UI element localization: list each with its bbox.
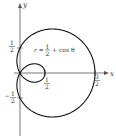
limacon-diagram: x y 1 2 − 1 2 1 2 3 2 r = 1 2 + cos θ xyxy=(0,0,116,140)
x-axis-label: x xyxy=(110,70,114,78)
svg-text:1: 1 xyxy=(46,43,50,50)
y-half-num: 1 xyxy=(10,39,14,46)
y-axis-arrow-icon xyxy=(18,3,22,8)
svg-text:2: 2 xyxy=(46,50,50,57)
y-half-den: 2 xyxy=(10,46,14,53)
equation-label: r = 1 2 + cos θ xyxy=(34,43,75,57)
svg-text:+ cos θ: + cos θ xyxy=(52,46,75,53)
y-neg-half-den: 2 xyxy=(11,97,15,104)
x-three-half-num: 3 xyxy=(95,73,99,80)
y-neg-half-sign: − xyxy=(4,92,9,99)
y-neg-half-num: 1 xyxy=(11,90,15,97)
y-axis-label: y xyxy=(22,1,28,9)
x-half-num: 1 xyxy=(45,76,49,83)
x-three-half-den: 2 xyxy=(95,80,99,87)
x-axis-arrow-icon xyxy=(104,71,109,75)
x-half-den: 2 xyxy=(45,83,49,90)
svg-text:r =: r = xyxy=(34,46,44,53)
